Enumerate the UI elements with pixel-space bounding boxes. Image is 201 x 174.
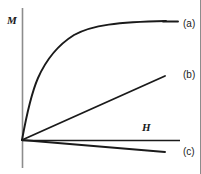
- series-label-b: (b): [183, 70, 195, 80]
- series-label-a: (a): [183, 19, 195, 29]
- magnetization-figure: M H (a) (b) (c): [0, 0, 201, 174]
- plot-canvas: [0, 0, 201, 174]
- y-axis-label: M: [7, 15, 17, 26]
- series-label-c: (c): [183, 147, 195, 157]
- x-axis-label: H: [142, 122, 151, 133]
